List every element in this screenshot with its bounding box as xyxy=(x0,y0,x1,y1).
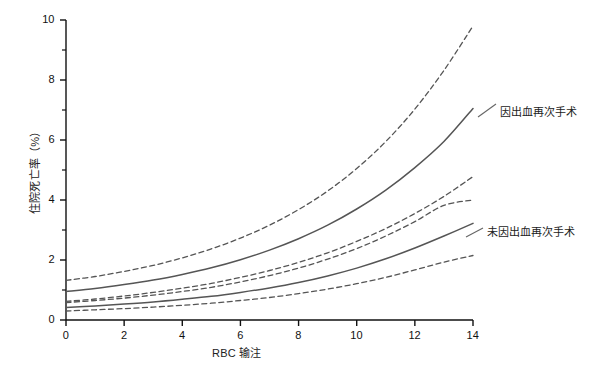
x-tick-label: 14 xyxy=(467,329,479,341)
annotation-no-reoperation: 未因出血再次手术 xyxy=(487,223,575,239)
chart-canvas xyxy=(0,0,589,371)
x-tick-label: 2 xyxy=(121,329,127,341)
x-tick-label: 0 xyxy=(63,329,69,341)
y-tick-label: 0 xyxy=(49,313,55,325)
x-tick-label: 4 xyxy=(179,329,185,341)
y-tick-label: 10 xyxy=(42,13,54,25)
x-tick-label: 6 xyxy=(237,329,243,341)
y-tick-label: 8 xyxy=(49,73,55,85)
y-tick-label: 4 xyxy=(49,193,55,205)
y-tick-label: 2 xyxy=(49,253,55,265)
x-tick-label: 10 xyxy=(350,329,362,341)
y-axis-label: 住院死亡率（%） xyxy=(26,126,42,214)
x-tick-label: 12 xyxy=(408,329,420,341)
x-axis-label: RBC 输注 xyxy=(212,344,261,360)
annotation-reoperation: 因出血再次手术 xyxy=(500,103,577,119)
y-tick-label: 6 xyxy=(49,133,55,145)
chart-figure: 住院死亡率（%） RBC 输注 因出血再次手术 未因出血再次手术 0246810… xyxy=(0,0,589,371)
chart-background xyxy=(0,0,589,371)
x-tick-label: 8 xyxy=(295,329,301,341)
